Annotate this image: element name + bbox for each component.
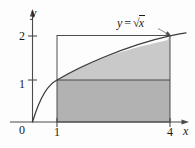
math-figure-area-under-sqrt-curve: y x 0 1 2 1 4 y=√x <box>0 0 195 148</box>
x-tick-label-4: 4 <box>167 126 173 138</box>
y-tick-label-2: 2 <box>19 30 25 42</box>
region-under-curve-above-one <box>57 36 170 80</box>
curve-label-radicand: x <box>139 15 145 30</box>
plot-canvas <box>0 0 195 148</box>
curve-equation-label: y=√x <box>117 17 145 29</box>
curve-label-y: y <box>117 16 122 30</box>
y-tick-label-1: 1 <box>19 78 25 90</box>
x-tick-label-1: 1 <box>54 126 60 138</box>
x-axis-label: x <box>183 125 188 137</box>
curve-label-equals: = <box>124 16 131 30</box>
region-rectangle-zero-to-one <box>57 80 170 122</box>
origin-label: 0 <box>19 124 25 136</box>
y-axis-label: y <box>31 7 36 19</box>
